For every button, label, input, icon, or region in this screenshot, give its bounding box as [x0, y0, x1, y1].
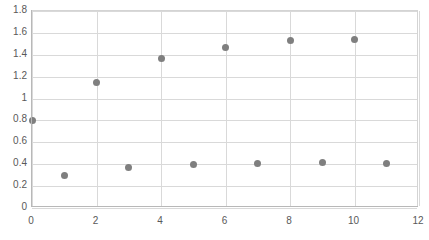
data-point[interactable]	[287, 37, 294, 44]
y-axis-tick-label: 0.6	[0, 136, 27, 146]
y-axis-tick-label: 0.8	[0, 114, 27, 124]
data-point[interactable]	[383, 160, 390, 167]
data-point[interactable]	[125, 164, 132, 171]
y-axis-tick-label: 1.6	[0, 27, 27, 37]
gridline-horizontal	[32, 11, 417, 12]
y-axis-tick-label: 0	[0, 202, 27, 212]
gridline-horizontal	[32, 33, 417, 34]
data-point[interactable]	[190, 161, 197, 168]
gridline-horizontal	[32, 208, 417, 209]
data-point[interactable]	[158, 55, 165, 62]
y-axis-tick-label: 1.4	[0, 49, 27, 59]
gridline-vertical	[97, 11, 98, 206]
gridline-vertical	[161, 11, 162, 206]
y-axis-tick-label: 1.2	[0, 71, 27, 81]
x-axis-tick-label: 6	[222, 216, 228, 226]
y-axis-tick-label: 1.8	[0, 5, 27, 15]
data-point[interactable]	[222, 44, 229, 51]
x-axis-line	[31, 206, 418, 207]
gridline-vertical	[226, 11, 227, 206]
gridline-vertical	[419, 11, 420, 206]
data-point[interactable]	[61, 172, 68, 179]
gridline-horizontal	[32, 55, 417, 56]
gridline-horizontal	[32, 77, 417, 78]
gridline-horizontal	[32, 186, 417, 187]
x-axis-tick-label: 12	[412, 216, 423, 226]
gridline-vertical	[32, 11, 33, 206]
x-axis-tick-label: 0	[28, 216, 34, 226]
scatter-chart: 00.20.40.60.811.21.41.61.8 024681012	[0, 0, 429, 240]
x-axis-tick-label: 4	[157, 216, 163, 226]
data-point[interactable]	[29, 117, 36, 124]
y-axis-tick-label: 1	[0, 93, 27, 103]
data-point[interactable]	[351, 36, 358, 43]
gridline-horizontal	[32, 164, 417, 165]
x-axis-tick-label: 10	[348, 216, 359, 226]
x-axis-tick-label: 2	[93, 216, 99, 226]
plot-area	[31, 10, 418, 207]
y-axis-tick-label: 0.2	[0, 180, 27, 190]
y-axis-line	[31, 10, 32, 207]
gridline-horizontal	[32, 142, 417, 143]
x-axis-tick-label: 8	[286, 216, 292, 226]
data-point[interactable]	[93, 79, 100, 86]
gridline-horizontal	[32, 120, 417, 121]
data-point[interactable]	[254, 160, 261, 167]
gridline-horizontal	[32, 99, 417, 100]
y-axis-tick-label: 0.4	[0, 158, 27, 168]
data-point[interactable]	[319, 159, 326, 166]
